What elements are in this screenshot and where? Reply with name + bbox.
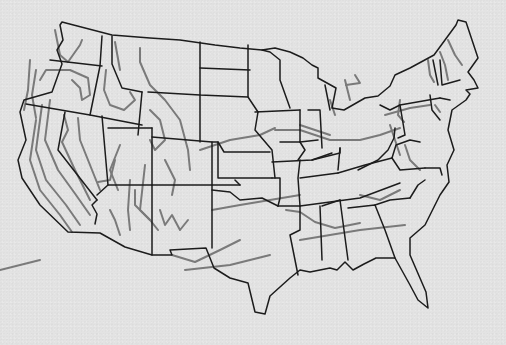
contour-line — [110, 210, 120, 235]
state-border — [58, 112, 97, 200]
contour-line — [275, 128, 400, 140]
state-border — [440, 98, 450, 100]
contour-line — [110, 145, 120, 190]
state-border — [312, 148, 340, 160]
state-border — [300, 173, 338, 178]
state-border — [425, 168, 442, 175]
state-border — [97, 116, 108, 195]
contour-line — [0, 260, 40, 270]
state-border — [392, 158, 425, 170]
contour-line — [32, 70, 36, 118]
contour-line — [435, 105, 440, 112]
contour-line — [346, 75, 360, 85]
state-border — [338, 158, 392, 173]
state-border — [340, 200, 348, 260]
us-map — [0, 0, 506, 345]
state-border — [320, 206, 322, 260]
state-border — [338, 148, 340, 170]
contour-line — [165, 160, 175, 195]
contour-lines — [0, 30, 462, 270]
state-border — [440, 60, 460, 85]
state-border — [248, 45, 258, 112]
state-border — [325, 85, 330, 110]
contour-line — [448, 40, 462, 65]
state-border — [272, 178, 280, 206]
state-border — [92, 200, 97, 224]
contour-line — [212, 195, 300, 210]
contour-line — [345, 80, 350, 100]
state-border — [300, 140, 318, 142]
state-borders — [26, 36, 460, 275]
contour-line — [286, 210, 360, 228]
state-border — [90, 36, 102, 115]
contour-line — [385, 105, 430, 115]
contour-line — [62, 115, 90, 200]
state-border — [410, 180, 425, 198]
contour-line — [128, 180, 130, 230]
state-border — [200, 68, 250, 70]
contour-line — [160, 210, 188, 230]
contour-line — [115, 42, 120, 70]
contour-line — [24, 60, 30, 110]
state-border — [262, 50, 290, 108]
contour-line — [185, 255, 270, 270]
state-border — [358, 128, 395, 170]
contour-line — [140, 48, 190, 170]
state-border — [255, 110, 300, 112]
contour-line — [135, 190, 158, 230]
state-border — [218, 142, 272, 178]
contour-line — [300, 225, 405, 240]
contour-line — [45, 100, 90, 215]
state-border — [300, 183, 400, 206]
state-border — [278, 206, 300, 275]
state-border — [255, 112, 275, 178]
state-border — [298, 110, 305, 160]
state-border — [26, 104, 142, 125]
state-border — [50, 60, 102, 66]
contour-line — [172, 240, 240, 262]
contour-line — [405, 145, 420, 170]
state-border — [112, 36, 142, 92]
state-border — [298, 160, 300, 206]
contour-line — [300, 125, 330, 135]
contour-line — [40, 70, 90, 100]
map-canvas — [0, 0, 506, 345]
